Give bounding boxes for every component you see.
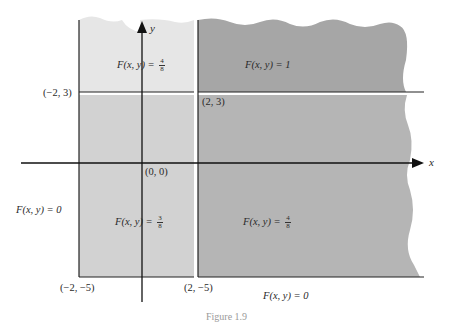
- origin-label: (0, 0): [145, 167, 168, 178]
- point-label-2-neg5: (2, −5): [184, 283, 213, 294]
- fraction: 48: [159, 58, 165, 73]
- region-label-bottom-left: F(x, y) = 38: [115, 215, 163, 230]
- y-axis-label: y: [150, 22, 155, 34]
- region-label-bottom-left-prefix: F(x, y) =: [115, 216, 155, 227]
- region-label-bottom-right: F(x, y) = 48: [243, 215, 291, 230]
- region-label-top-left-prefix: F(x, y) =: [117, 59, 157, 70]
- region-bottom-right: [198, 95, 420, 277]
- point-label-neg2-3: (−2, 3): [43, 88, 72, 99]
- region-label-outside-bottom: F(x, y) = 0: [263, 291, 309, 302]
- region-label-top-left: F(x, y) = 48: [117, 58, 165, 73]
- region-label-top-right: F(x, y) = 1: [245, 60, 291, 71]
- figure-caption: Figure 1.9: [206, 311, 247, 322]
- region-top-right: [198, 18, 407, 92]
- region-label-outside-left: F(x, y) = 0: [16, 205, 62, 216]
- point-label-2-3: (2, 3): [202, 97, 225, 108]
- region-label-bottom-right-prefix: F(x, y) =: [243, 216, 283, 227]
- point-label-neg2-neg5: (−2, −5): [60, 283, 95, 294]
- fraction: 38: [157, 215, 163, 230]
- x-axis-arrow-icon: [412, 158, 424, 168]
- x-axis-label: x: [429, 156, 434, 168]
- region-top-left: [79, 16, 194, 92]
- fraction: 48: [285, 215, 291, 230]
- region-bottom-left: [79, 95, 194, 277]
